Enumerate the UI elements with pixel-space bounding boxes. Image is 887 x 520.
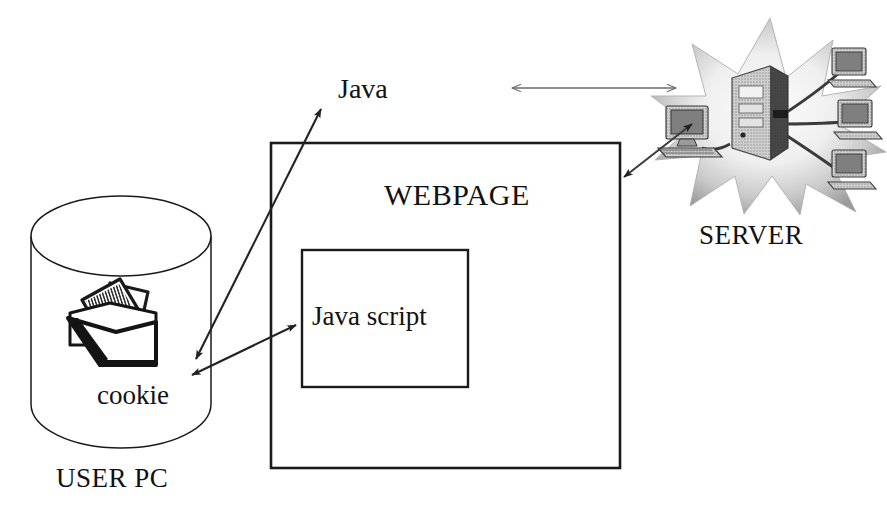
javascript-link-arrow [192, 325, 296, 375]
server-label: SERVER [699, 222, 803, 249]
server-starburst-icon [651, 18, 886, 215]
java-link-arrow [196, 109, 321, 359]
webpage-server-diagonal-arrow [624, 124, 692, 177]
cookie-folder-icon [68, 279, 156, 366]
desktop-computer-icon [658, 106, 722, 157]
java-label: Java [338, 75, 388, 103]
user-pc-cylinder [31, 196, 211, 448]
cookie-label: cookie [97, 382, 169, 409]
webpage-label: WEBPAGE [384, 180, 530, 210]
diagram-canvas: Java WEBPAGE Java script cookie USER PC … [0, 0, 887, 520]
user-pc-label: USER PC [56, 465, 168, 492]
server-tower-icon [732, 66, 788, 160]
monitor-stack-icon [828, 48, 882, 189]
diagram-vector-layer [0, 0, 887, 520]
java-script-label: Java script [312, 303, 427, 330]
